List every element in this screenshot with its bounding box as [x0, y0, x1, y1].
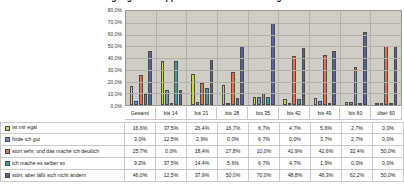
legend-swatch-icon: [5, 137, 10, 142]
table-cell-value: 41,9%: [280, 146, 311, 157]
table-cell-value: 12,5%: [156, 134, 187, 145]
table-cell-value: 37,5%: [156, 158, 187, 169]
table-cell-value: 46,3%: [311, 170, 342, 181]
gridline: [126, 58, 401, 59]
table-cell-value: 48,8%: [280, 170, 311, 181]
y-axis: 80,0%70,0%60,0%50,0%40,0%30,0%20,0%10,0%…: [98, 10, 124, 106]
table-cell-value: 62,2%: [342, 170, 373, 181]
legend-swatch-icon: [5, 161, 10, 166]
bar: [191, 74, 195, 105]
bar: [323, 55, 327, 105]
table-cell-value: 37,9%: [187, 170, 218, 181]
x-axis-label: bis 42: [279, 107, 310, 120]
bar: [297, 99, 301, 105]
bar: [389, 103, 393, 105]
x-axis-label: bis 35: [248, 107, 279, 120]
gridline: [126, 82, 401, 83]
bar: [380, 103, 384, 105]
table-cell-value: 32,4%: [342, 146, 373, 157]
bar: [262, 93, 266, 105]
table-cell-value: 42,6%: [311, 146, 342, 157]
x-axis-label: bis 49: [310, 107, 341, 120]
bar: [210, 60, 214, 105]
gridline: [126, 70, 401, 71]
x-axis-label: bis 60: [340, 107, 371, 120]
table-row: ist mir egal16,6%37,5%26,4%16,7%6,7%4,7%…: [0, 122, 404, 134]
gridline: [126, 93, 401, 94]
bar: [288, 103, 292, 105]
table-cell-value: 3,0%: [125, 134, 156, 145]
y-axis-tick: 30,0%: [108, 68, 122, 73]
chart-area: 80,0%70,0%60,0%50,0%40,0%30,0%20,0%10,0%…: [98, 10, 404, 122]
table-cell-value: 4,7%: [280, 123, 311, 133]
y-axis-tick: 20,0%: [108, 80, 122, 85]
gridline: [126, 46, 401, 47]
gridline: [126, 35, 401, 36]
y-axis-tick: 50,0%: [108, 44, 122, 49]
table-cell-value: 70,0%: [249, 170, 280, 181]
y-axis-tick: 60,0%: [108, 32, 122, 37]
table-cell-value: 6,7%: [249, 158, 280, 169]
table-cell-value: 0,0%: [218, 134, 249, 145]
chart-title: Umgang mit Gruppen - Verhalten weiterhin…: [0, 0, 404, 2]
x-axis-label: bis 14: [156, 107, 187, 120]
table-cell-value: 25,7%: [125, 146, 156, 157]
bar: [231, 72, 235, 105]
table-cell-value: 46,0%: [125, 170, 156, 181]
table-cell-value: 16,6%: [125, 123, 156, 133]
table-row: stört, aber läßt sich nicht ändern46,0%1…: [0, 170, 404, 182]
bar: [170, 103, 174, 105]
bar: [148, 51, 152, 105]
legend-entry: stört sehr, und das mache ich deutlich: [0, 146, 125, 157]
table-cell-value: 2,7%: [342, 123, 373, 133]
table-cell-value: 2,9%: [187, 134, 218, 145]
table-cell-value: 0,0%: [280, 134, 311, 145]
bar: [384, 46, 388, 105]
table-cell-value: 50,0%: [373, 146, 404, 157]
data-table: ist mir egal16,6%37,5%26,4%16,7%6,7%4,7%…: [0, 122, 404, 182]
x-axis-label: bis 21: [187, 107, 218, 120]
bar: [292, 56, 296, 105]
table-row: ich mache es selber so9,2%37,5%14,4%5,6%…: [0, 158, 404, 170]
y-axis-tick: 80,0%: [108, 8, 122, 13]
bar: [354, 67, 358, 105]
table-cell-value: 18,4%: [187, 146, 218, 157]
bar: [266, 97, 270, 105]
bar: [253, 97, 257, 105]
table-cell-value: 26,4%: [187, 123, 218, 133]
table-cell-value: 5,6%: [311, 123, 342, 133]
x-axis-label: Gesamt: [125, 107, 156, 120]
table-cell-value: 0,0%: [373, 123, 404, 133]
bar: [144, 94, 148, 105]
bar: [205, 88, 209, 105]
table-cell-value: 9,2%: [125, 158, 156, 169]
legend-label: stört sehr, und das mache ich deutlich: [12, 149, 99, 154]
table-cell-value: 0,0%: [156, 146, 187, 157]
chart-screenshot: Umgang mit Gruppen - Verhalten weiterhin…: [0, 0, 404, 194]
table-cell-value: 10,0%: [249, 146, 280, 157]
table-cell-value: 0,0%: [373, 158, 404, 169]
table-cell-value: 1,9%: [311, 158, 342, 169]
plot-area: [125, 10, 402, 106]
x-axis-label: über 60: [371, 107, 402, 120]
bar: [161, 61, 165, 105]
table-cell-value: 14,4%: [187, 158, 218, 169]
bar: [139, 75, 143, 105]
y-axis-tick: 70,0%: [108, 20, 122, 25]
bar: [226, 103, 230, 105]
y-axis-tick: 40,0%: [108, 56, 122, 61]
legend-entry: finde ich gut: [0, 134, 125, 145]
legend-swatch-icon: [5, 126, 10, 131]
bar: [345, 102, 349, 105]
bar: [222, 85, 226, 105]
bar: [134, 101, 138, 105]
bar: [257, 97, 261, 105]
x-axis-label: bis 28: [217, 107, 248, 120]
y-axis-tick: 10,0%: [108, 92, 122, 97]
table-cell-value: 12,5%: [156, 170, 187, 181]
legend-label: stört, aber läßt sich nicht ändern: [12, 173, 86, 178]
bar: [283, 99, 287, 105]
bar: [328, 103, 332, 105]
table-row: finde ich gut3,0%12,5%2,9%0,0%6,7%0,0%3,…: [0, 134, 404, 146]
bar: [302, 48, 306, 105]
